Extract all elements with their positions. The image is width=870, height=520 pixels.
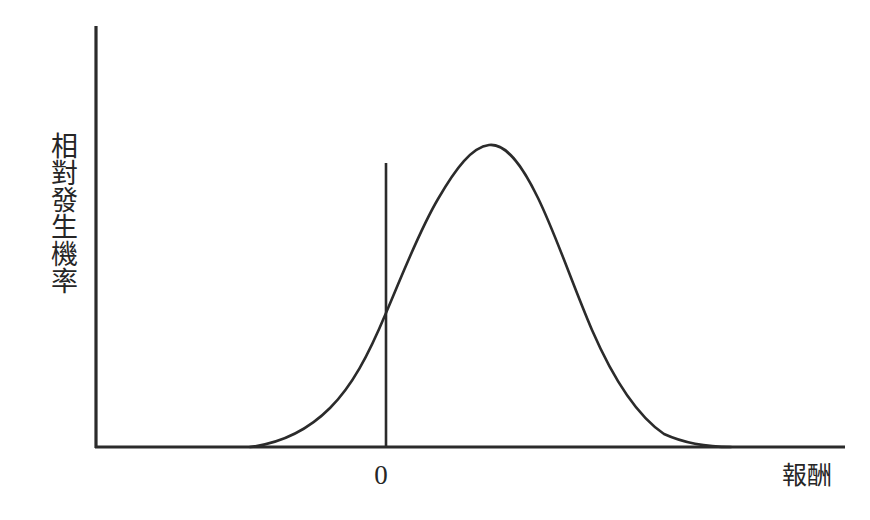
x-axis-label: 報酬 — [782, 462, 832, 490]
distribution-curve — [250, 145, 731, 447]
x-tick-label-zero: 0 — [366, 460, 396, 490]
chart-canvas — [0, 0, 870, 520]
y-axis-label: 相對發生機率 — [36, 132, 78, 294]
chart-figure: 相對發生機率 0 報酬 — [0, 0, 870, 520]
